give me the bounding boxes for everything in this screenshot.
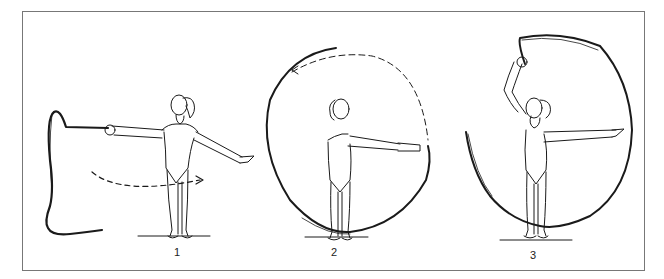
panel-2 (267, 48, 430, 240)
panel-1 (46, 95, 254, 238)
ribbon-3 (466, 35, 632, 227)
panel-label-2: 2 (324, 246, 344, 258)
ribbon-1 (46, 111, 108, 234)
ribbon-2 (267, 48, 430, 232)
dashed-arc (292, 55, 428, 140)
panel-label-3: 3 (523, 249, 543, 261)
panel-label-1: 1 (167, 246, 187, 258)
panel-3 (466, 35, 632, 240)
rotation-arrow (92, 172, 200, 186)
ribbon-gymnastics-illustration (0, 0, 664, 279)
